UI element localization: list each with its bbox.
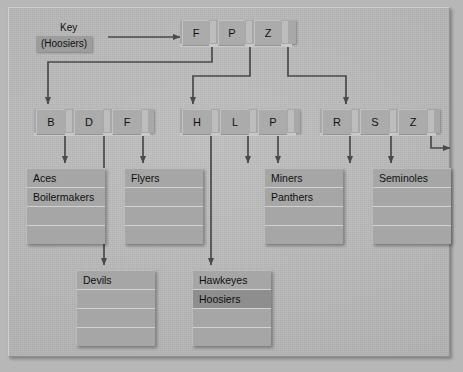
leaf-row[interactable] xyxy=(373,226,451,244)
leaf-row[interactable] xyxy=(27,207,105,226)
leaf-row[interactable] xyxy=(265,226,343,244)
root-index-node[interactable]: F P Z xyxy=(180,20,296,44)
leaf-row[interactable]: Seminoles xyxy=(373,169,451,188)
leaf-seminoles[interactable]: Seminoles xyxy=(372,168,451,244)
key-value-box[interactable]: (Hoosiers) xyxy=(36,36,92,52)
leaf-row[interactable] xyxy=(193,309,271,328)
leaf-row[interactable]: Aces xyxy=(27,169,105,188)
rsz-pointer-0[interactable] xyxy=(352,110,358,132)
index-node-bdf[interactable]: B D F xyxy=(34,109,154,133)
root-pointer-2[interactable] xyxy=(282,21,288,43)
rsz-pointer-2[interactable] xyxy=(428,110,434,132)
leaf-devils[interactable]: Devils xyxy=(76,270,155,346)
leaf-row[interactable] xyxy=(77,290,155,309)
rsz-key-0[interactable]: R xyxy=(322,109,351,135)
leaf-hawkeyes[interactable]: Hawkeyes Hoosiers xyxy=(192,270,271,346)
index-node-rsz[interactable]: R S Z xyxy=(320,109,440,133)
rsz-pointer-1[interactable] xyxy=(390,110,396,132)
bdf-key-0[interactable]: B xyxy=(36,109,65,135)
leaf-row[interactable]: Panthers xyxy=(265,188,343,207)
leaf-row[interactable] xyxy=(77,309,155,328)
leaf-row[interactable] xyxy=(373,207,451,226)
leaf-row[interactable] xyxy=(125,188,203,207)
leaf-flyers[interactable]: Flyers xyxy=(124,168,203,244)
hlp-pointer-1[interactable] xyxy=(250,110,256,132)
bdf-pointer-1[interactable] xyxy=(104,110,110,132)
root-key-0[interactable]: F xyxy=(182,20,209,46)
leaf-row[interactable] xyxy=(265,207,343,226)
hlp-pointer-0[interactable] xyxy=(212,110,218,132)
leaf-row[interactable] xyxy=(125,226,203,244)
leaf-row[interactable]: Flyers xyxy=(125,169,203,188)
leaf-row[interactable]: Boilermakers xyxy=(27,188,105,207)
root-key-2[interactable]: Z xyxy=(254,20,281,46)
hlp-key-0[interactable]: H xyxy=(182,109,211,135)
bdf-key-2[interactable]: F xyxy=(112,109,141,135)
leaf-row[interactable] xyxy=(373,188,451,207)
diagram-canvas: Key (Hoosiers) F P Z B D F H L P R S Z xyxy=(0,0,463,372)
rsz-key-1[interactable]: S xyxy=(360,109,389,135)
root-pointer-1[interactable] xyxy=(246,21,252,43)
index-node-hlp[interactable]: H L P xyxy=(180,109,300,133)
hlp-pointer-2[interactable] xyxy=(288,110,294,132)
leaf-miners[interactable]: Miners Panthers xyxy=(264,168,343,244)
bdf-pointer-2[interactable] xyxy=(142,110,148,132)
root-pointer-0[interactable] xyxy=(210,21,216,43)
leaf-row-highlighted[interactable]: Hoosiers xyxy=(193,290,271,309)
leaf-row[interactable] xyxy=(193,328,271,346)
bdf-pointer-0[interactable] xyxy=(66,110,72,132)
leaf-row[interactable] xyxy=(27,226,105,244)
leaf-aces[interactable]: Aces Boilermakers xyxy=(26,168,105,244)
leaf-row[interactable]: Hawkeyes xyxy=(193,271,271,290)
hlp-key-1[interactable]: L xyxy=(220,109,249,135)
leaf-row[interactable] xyxy=(77,328,155,346)
bdf-key-1[interactable]: D xyxy=(74,109,103,135)
leaf-row[interactable]: Devils xyxy=(77,271,155,290)
leaf-row[interactable]: Miners xyxy=(265,169,343,188)
root-key-1[interactable]: P xyxy=(218,20,245,46)
hlp-key-2[interactable]: P xyxy=(258,109,287,135)
leaf-row[interactable] xyxy=(125,207,203,226)
key-label: Key xyxy=(60,22,77,33)
rsz-key-2[interactable]: Z xyxy=(398,109,427,135)
